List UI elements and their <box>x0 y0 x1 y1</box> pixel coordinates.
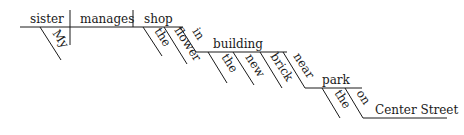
prep-object-park: park <box>322 73 351 87</box>
verb-word: manages <box>80 12 134 26</box>
modifier-new: new <box>242 51 268 80</box>
prep-object-building: building <box>213 37 263 51</box>
sentence-diagram: sister manages shop My the flower in bui… <box>0 0 464 135</box>
modifier-the: the <box>331 87 353 111</box>
object-word: shop <box>144 12 173 26</box>
preposition-on: on <box>353 87 373 107</box>
subject-word: sister <box>30 12 64 26</box>
modifier-the: the <box>218 51 240 75</box>
prep-object-center-street: Center Street <box>375 103 458 117</box>
